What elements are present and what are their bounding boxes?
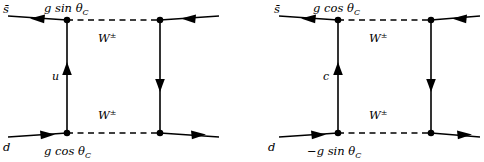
w-boson-label-top: W± xyxy=(369,31,388,45)
external-arrow-bottom-right-icon xyxy=(191,131,206,140)
vertex-bottom-right xyxy=(157,130,164,137)
u-quark-box-diagram: s̄ d g sin θC g cos θC W± W± u xyxy=(3,1,219,160)
coupling-label-bottom: −g sin θC xyxy=(307,144,361,160)
external-arrow-bottom-left-icon xyxy=(40,131,55,140)
w-boson-label-top: W± xyxy=(98,31,117,45)
coupling-label-top: g sin θC xyxy=(44,1,89,17)
external-arrow-top-right-icon xyxy=(452,15,467,24)
internal-fermion-label: u xyxy=(52,70,59,83)
external-leg-bottom-right xyxy=(431,133,480,137)
feynman-figure: s̄ d g sin θC g cos θC W± W± u xyxy=(0,0,484,162)
w-boson-label-top-superscript: ± xyxy=(381,31,388,40)
vertex-bottom-left xyxy=(335,130,342,137)
internal-arrow-down-icon xyxy=(426,79,436,92)
external-arrow-top-right-icon xyxy=(181,15,196,24)
external-label-down-quark: d xyxy=(3,140,10,154)
coupling-label-bottom-text: −g sin θ xyxy=(307,144,355,158)
w-boson-label-bottom-superscript: ± xyxy=(381,108,388,117)
coupling-label-bottom: g cos θC xyxy=(44,144,91,160)
external-label-down-quark: d xyxy=(268,140,275,154)
coupling-label-top-subscript: C xyxy=(83,8,89,17)
external-arrow-bottom-left-icon xyxy=(311,131,326,140)
external-label-antistrange: s̄ xyxy=(274,2,280,16)
external-leg-bottom-right xyxy=(160,133,219,137)
internal-arrow-up-icon xyxy=(62,62,72,75)
coupling-label-top-text: g sin θ xyxy=(44,1,83,15)
coupling-label-top-subscript: C xyxy=(354,8,360,17)
external-leg-bottom-left xyxy=(8,133,67,137)
vertex-top-right xyxy=(428,17,435,24)
vertex-bottom-left xyxy=(64,130,71,137)
external-leg-bottom-left xyxy=(279,133,338,137)
coupling-label-top-text: g cos θ xyxy=(313,1,354,15)
vertex-top-left xyxy=(64,17,71,24)
coupling-label-top: g cos θC xyxy=(313,1,360,17)
vertex-bottom-right xyxy=(428,130,435,137)
w-boson-label-bottom-superscript: ± xyxy=(110,108,117,117)
coupling-label-bottom-subscript: C xyxy=(85,151,91,160)
w-boson-label-bottom: W± xyxy=(369,108,388,122)
vertex-top-left xyxy=(335,17,342,24)
coupling-label-bottom-subscript: C xyxy=(355,151,361,160)
external-label-antistrange: s̄ xyxy=(3,2,9,16)
internal-arrow-down-icon xyxy=(155,79,165,92)
internal-arrow-up-icon xyxy=(333,62,343,75)
internal-fermion-label: c xyxy=(323,70,329,83)
vertex-top-right xyxy=(157,17,164,24)
c-quark-box-diagram: s̄ d g cos θC −g sin θC W± W± c xyxy=(268,1,480,160)
coupling-label-bottom-text: g cos θ xyxy=(44,144,85,158)
w-boson-label-top-superscript: ± xyxy=(110,31,117,40)
external-arrow-bottom-right-icon xyxy=(457,131,472,140)
external-arrow-top-left-icon xyxy=(301,15,316,24)
external-arrow-top-left-icon xyxy=(30,15,45,24)
w-boson-label-bottom: W± xyxy=(98,108,117,122)
diagram-canvas: s̄ d g sin θC g cos θC W± W± u xyxy=(0,0,484,162)
